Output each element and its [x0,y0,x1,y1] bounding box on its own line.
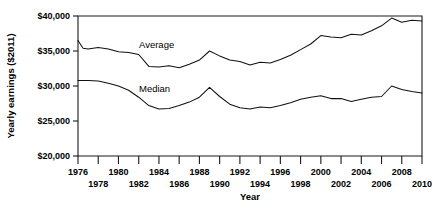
series-label-average: Average [139,39,174,50]
series-line-average [78,18,422,68]
x-tick-label: 1990 [210,179,230,189]
y-axis-tick-labels: $20,000$25,000$30,000$35,000$40,000 [37,11,70,161]
series-label-median: Median [139,83,170,94]
x-tick-label: 1978 [88,179,108,189]
y-axis-tick-marks [73,16,78,156]
x-tick-label: 1992 [230,167,250,177]
x-tick-label: 2006 [372,179,392,189]
x-axis-tick-labels: 1976197819801982198419861988199019921994… [68,167,432,189]
plot-frame [78,16,422,156]
y-tick-label: $40,000 [37,11,70,21]
x-tick-label: 1988 [189,167,209,177]
x-axis-title: Year [240,191,260,202]
line-chart: Yearly earnings ($2011) $20,000$25,000$3… [0,0,441,213]
x-tick-label: 1998 [291,179,311,189]
chart-container: Yearly earnings ($2011) $20,000$25,000$3… [0,0,441,213]
x-tick-label: 2002 [331,179,351,189]
x-tick-label: 1980 [108,167,128,177]
x-tick-label: 2000 [311,167,331,177]
y-tick-label: $30,000 [37,81,70,91]
y-tick-label: $20,000 [37,151,70,161]
y-tick-label: $35,000 [37,46,70,56]
x-tick-label: 1996 [270,167,290,177]
x-tick-label: 1994 [250,179,270,189]
x-tick-label: 1984 [149,167,169,177]
y-axis-title: Yearly earnings ($2011) [5,33,16,138]
x-tick-label: 1976 [68,167,88,177]
x-tick-label: 2010 [412,179,432,189]
x-tick-label: 2004 [351,167,371,177]
x-tick-label: 1986 [169,179,189,189]
y-tick-label: $25,000 [37,116,70,126]
x-axis-tick-marks [78,156,422,164]
series-line-median [78,80,422,109]
x-tick-label: 1982 [129,179,149,189]
x-tick-label: 2008 [392,167,412,177]
